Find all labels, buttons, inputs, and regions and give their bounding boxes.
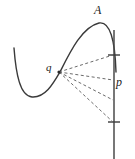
cubic-curve [14, 23, 116, 97]
diagram-svg [0, 0, 135, 159]
label-apex-A: A [94, 4, 101, 16]
dashed-ray-4 [59, 72, 113, 122]
dashed-ray-2 [59, 72, 113, 80]
dashed-ray-3 [59, 72, 113, 100]
fan-origin-point [57, 70, 60, 73]
label-vertex-q: q [46, 62, 52, 73]
figure-canvas: A q p [0, 0, 135, 159]
dashed-rays-group [59, 55, 113, 122]
label-point-p: p [116, 76, 122, 88]
